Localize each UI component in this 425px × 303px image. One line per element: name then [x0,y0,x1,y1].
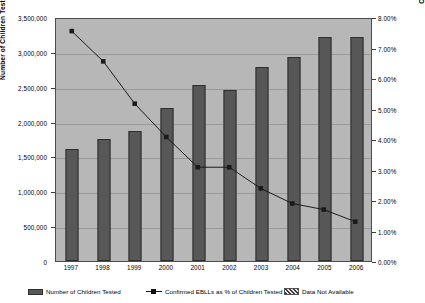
line-marker-2003 [258,186,263,191]
y-axis-left-tick: 2,500,000 [18,84,47,91]
y-axis-left: 3,500,000 3,000,000 2,500,000 2,000,000 … [0,0,52,303]
y-axis-left-tick: 1,000,000 [18,189,47,196]
y-axis-right-tick: 4.00% [378,137,396,144]
x-axis-tick-2003: 2003 [254,264,268,271]
line-marker-2001 [195,165,200,170]
x-axis-tick-2005: 2005 [317,264,331,271]
x-axis-tick-2006: 2006 [349,264,363,271]
y-axis-right-tickmark [372,232,376,233]
y-axis-left-tick: 500,000 [24,224,47,231]
x-axis-tick-2004: 2004 [286,264,300,271]
chart-legend: Number of Children Tested Confirmed EBLL… [0,286,421,300]
y-axis-right-tickmark [372,262,376,263]
y-axis-right-tick: 2.00% [378,198,396,205]
y-axis-right-tickmark [372,18,376,19]
y-axis-right-tickmark [372,171,376,172]
y-axis-right-tick: 7.00% [378,45,396,52]
line-marker-2004 [290,201,295,206]
line-series-layer [56,19,371,261]
x-axis-tick-1998: 1998 [95,264,109,271]
y-axis-right-tick: 1.00% [378,228,396,235]
line-marker-1999 [132,101,137,106]
y-axis-left-tick: 1,500,000 [18,154,47,161]
line-marker-2000 [164,135,169,140]
y-axis-right-tick: 8.00% [378,15,396,22]
x-axis-tick-2001: 2001 [190,264,204,271]
legend-label: Data Not Available [302,288,354,295]
x-axis-tick-2002: 2002 [222,264,236,271]
legend-item-data-not-available: Data Not Available [284,288,354,295]
y-axis-left-tick: 3,000,000 [18,49,47,56]
x-axis-tick-1999: 1999 [127,264,141,271]
y-axis-left-tick: 0 [43,259,47,266]
x-axis-tick-1997: 1997 [64,264,78,271]
x-axis-tick-2000: 2000 [159,264,173,271]
line-marker-2002 [227,165,232,170]
y-axis-right-tickmark [372,79,376,80]
y-axis-right-title: Confirmed EBLLs as % of Children Tested [418,0,425,30]
y-axis-right-tickmark [372,140,376,141]
legend-label: Number of Children Tested [46,288,121,295]
plot-area [55,18,372,262]
line-path [72,31,356,222]
line-marker-swatch-icon [146,288,162,295]
y-axis-right-tickmark [372,110,376,111]
y-axis-left-tick: 2,000,000 [18,119,47,126]
y-axis-right-tick: 5.00% [378,106,396,113]
y-axis-left-tick: 3,500,000 [18,15,47,22]
line-marker-1997 [69,29,74,34]
y-axis-right-tick: 6.00% [378,76,396,83]
legend-item-children-tested: Number of Children Tested [28,288,121,295]
x-axis: 1997199819992000200120022003200420052006 [55,264,372,278]
legend-item-eblls-percent: Confirmed EBLLs as % of Children Tested [146,288,282,295]
hatched-swatch-icon [284,288,299,295]
line-marker-2006 [353,219,358,224]
legend-label: Confirmed EBLLs as % of Children Tested [165,288,282,295]
line-marker-1998 [101,59,106,64]
y-axis-right: 8.00% 7.00% 6.00% 5.00% 4.00% 3.00% 2.00… [372,0,421,303]
y-axis-right-tickmark [372,201,376,202]
y-axis-right-tick: 0.00% [378,259,396,266]
y-axis-right-tick: 3.00% [378,167,396,174]
y-axis-right-tickmark [372,49,376,50]
bar-swatch-icon [28,289,43,295]
y-axis-left-title: Number of Children Tested [0,0,6,96]
line-marker-2005 [321,207,326,212]
